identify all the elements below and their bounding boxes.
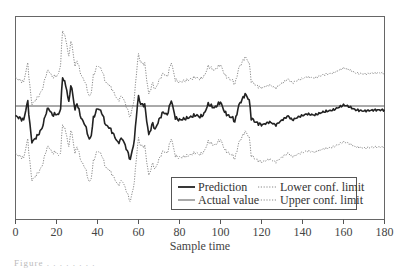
figure-caption: Figure . . . . . . . . bbox=[14, 258, 96, 268]
x-tick-label: 180 bbox=[376, 225, 394, 239]
upper-conf-limit-line bbox=[16, 31, 385, 117]
x-tick-label: 140 bbox=[294, 225, 312, 239]
legend: Prediction Actual value Lower conf. limi… bbox=[172, 178, 365, 210]
legend-actual-label: Actual value bbox=[198, 193, 259, 207]
legend-upper-label: Upper conf. limit bbox=[280, 193, 364, 207]
x-tick-label: 0 bbox=[13, 225, 19, 239]
x-tick-label: 60 bbox=[133, 225, 145, 239]
legend-prediction-label: Prediction bbox=[198, 180, 247, 194]
x-tick-label: 80 bbox=[174, 225, 186, 239]
legend-lower-label: Lower conf. limit bbox=[280, 180, 365, 194]
x-tick-label: 40 bbox=[92, 225, 104, 239]
x-axis: 020406080100120140160180 bbox=[13, 220, 394, 240]
series-layer bbox=[16, 31, 385, 202]
x-axis-title: Sample time bbox=[170, 239, 230, 253]
x-tick-label: 160 bbox=[335, 225, 353, 239]
x-tick-label: 120 bbox=[253, 225, 271, 239]
x-tick-label: 20 bbox=[51, 225, 63, 239]
x-tick-label: 100 bbox=[212, 225, 230, 239]
